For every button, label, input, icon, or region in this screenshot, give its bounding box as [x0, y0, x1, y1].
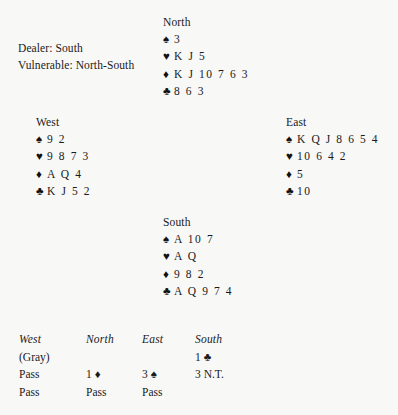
hand-east-diamonds: ♦5 [286, 166, 379, 183]
spade-icon: ♠ [36, 131, 47, 148]
hand-east-label: East [286, 114, 379, 131]
diamond-icon: ♦ [163, 66, 174, 83]
deal-conditions: Dealer: South Vulnerable: North-South [18, 40, 134, 74]
bid-cell-south: 3 N.T. [195, 366, 255, 384]
hand-west-spades-cards: 9 2 [47, 133, 66, 145]
heart-icon: ♥ [286, 148, 297, 165]
hand-south-hearts: ♥A Q [163, 248, 233, 265]
hand-west-diamonds: ♦A Q 4 [36, 166, 91, 183]
bid-cell-east [142, 349, 195, 367]
hand-south-diamonds-cards: 9 8 2 [174, 268, 205, 280]
club-icon: ♣ [163, 283, 174, 300]
hand-north-diamonds: ♦K J 10 7 6 3 [163, 66, 249, 83]
diamond-icon: ♦ [163, 266, 174, 283]
spade-icon: ♠ [163, 31, 174, 48]
hand-south-clubs: ♣A Q 9 7 4 [163, 283, 233, 300]
bid-cell-east: Pass [142, 384, 195, 402]
hand-south-spades-cards: A 10 7 [174, 233, 214, 245]
hand-south-spades: ♠A 10 7 [163, 231, 233, 248]
hand-east-spades-cards: K Q J 8 6 5 4 [297, 133, 379, 145]
club-icon: ♣ [36, 183, 47, 200]
hand-west-label: West [36, 114, 91, 131]
hand-north-hearts: ♥K J 5 [163, 48, 249, 65]
auction-header-south: South [195, 331, 255, 349]
hand-north-hearts-cards: K J 5 [174, 50, 206, 62]
auction-row: (Gray) 1 ♣ [19, 349, 255, 367]
hand-east-clubs-cards: 10 [297, 185, 312, 197]
hand-south-label: South [163, 214, 233, 231]
hand-west-clubs: ♣K J 5 2 [36, 183, 91, 200]
hand-east-hearts: ♥10 6 4 2 [286, 148, 379, 165]
hand-west-spades: ♠9 2 [36, 131, 91, 148]
hand-west-hearts: ♥9 8 7 3 [36, 148, 91, 165]
heart-icon: ♥ [163, 48, 174, 65]
bid-cell-north [86, 349, 142, 367]
hand-east-clubs: ♣10 [286, 183, 379, 200]
auction-table: West North East South (Gray) 1 ♣ Pass 1 … [19, 331, 255, 401]
spade-icon: ♠ [163, 231, 174, 248]
bid-cell-west: Pass [19, 384, 86, 402]
hand-north: North ♠3 ♥K J 5 ♦K J 10 7 6 3 ♣8 6 3 [163, 14, 249, 100]
bid-cell-west: Pass [19, 366, 86, 384]
hand-south-diamonds: ♦9 8 2 [163, 266, 233, 283]
hand-south-hearts-cards: A Q [174, 250, 198, 262]
auction-header-west: West [19, 331, 86, 349]
vulnerable-text: Vulnerable: North-South [18, 57, 134, 74]
hand-west-hearts-cards: 9 8 7 3 [47, 150, 90, 162]
hand-east-diamonds-cards: 5 [297, 168, 304, 180]
hand-east: East ♠K Q J 8 6 5 4 ♥10 6 4 2 ♦5 ♣10 [286, 114, 379, 200]
bid-cell-north: 1 ♦ [86, 366, 142, 384]
hand-south-clubs-cards: A Q 9 7 4 [174, 285, 233, 297]
diamond-icon: ♦ [36, 166, 47, 183]
club-icon: ♣ [163, 83, 174, 100]
bid-cell-east: 3 ♠ [142, 366, 195, 384]
hand-west-diamonds-cards: A Q 4 [47, 168, 82, 180]
auction-row: Pass 1 ♦ 3 ♠ 3 N.T. [19, 366, 255, 384]
heart-icon: ♥ [36, 148, 47, 165]
spade-icon: ♠ [286, 131, 297, 148]
bid-cell-north: Pass [86, 384, 142, 402]
hand-west-clubs-cards: K J 5 2 [47, 185, 91, 197]
hand-west: West ♠9 2 ♥9 8 7 3 ♦A Q 4 ♣K J 5 2 [36, 114, 91, 200]
club-icon: ♣ [286, 183, 297, 200]
hand-north-spades: ♠3 [163, 31, 249, 48]
hand-north-clubs: ♣8 6 3 [163, 83, 249, 100]
hand-east-spades: ♠K Q J 8 6 5 4 [286, 131, 379, 148]
auction-header-north: North [86, 331, 142, 349]
bid-cell-south [195, 384, 255, 402]
hand-north-spades-cards: 3 [174, 33, 181, 45]
bid-cell-west: (Gray) [19, 349, 86, 367]
auction-header-east: East [142, 331, 195, 349]
auction-header-row: West North East South [19, 331, 255, 349]
hand-north-label: North [163, 14, 249, 31]
hand-north-diamonds-cards: K J 10 7 6 3 [174, 68, 249, 80]
hand-south: South ♠A 10 7 ♥A Q ♦9 8 2 ♣A Q 9 7 4 [163, 214, 233, 300]
hand-north-clubs-cards: 8 6 3 [174, 85, 205, 97]
dealer-text: Dealer: South [18, 40, 134, 57]
auction-row: Pass Pass Pass [19, 384, 255, 402]
hand-east-hearts-cards: 10 6 4 2 [297, 150, 347, 162]
bridge-deal-diagram: Dealer: South Vulnerable: North-South No… [0, 0, 398, 415]
diamond-icon: ♦ [286, 166, 297, 183]
heart-icon: ♥ [163, 248, 174, 265]
bid-cell-south: 1 ♣ [195, 349, 255, 367]
